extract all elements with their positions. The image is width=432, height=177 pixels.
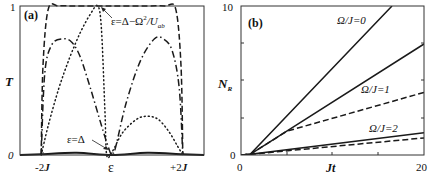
annotation-bottom: ε=Δ <box>67 133 85 145</box>
curve-label-omega2: Ω/J=2 <box>369 122 398 134</box>
curve-label-omega1: Ω/J=1 <box>361 83 390 95</box>
panel-b-ytick-bottom: 0 <box>230 149 236 161</box>
panel-b-ylabel: NR <box>217 76 232 93</box>
panel-a-ytick-bottom: 0 <box>8 149 14 161</box>
figure: (a) 1 0 T -2J ε +2J ε=Δ−Ω2/Uab ε=Δ <box>0 0 432 177</box>
panel-b-xlabel: Jt <box>325 161 336 175</box>
panel-b-xtick-right: 20 <box>416 161 428 173</box>
panel-a-label: (a) <box>24 8 38 22</box>
panel-a-xtick-left: -2J <box>35 161 50 173</box>
panel-a-xlabel: ε <box>108 160 114 175</box>
curve-label-omega0: Ω/J=0 <box>337 14 366 26</box>
panel-a-frame <box>20 6 204 155</box>
panel-a-ytick-top: 1 <box>10 1 16 13</box>
panel-b-label: (b) <box>248 16 263 30</box>
panel-b-ytick-top: 10 <box>222 1 234 13</box>
panel-b-xtick-left: 0 <box>237 161 243 173</box>
series-line <box>41 37 183 155</box>
annotation-top: ε=Δ−Ω2/Uab <box>111 14 165 30</box>
panel-b: (b) 10 0 NR 0 Jt 20 Ω/J=0 Ω/J=1 Ω/J=2 <box>217 1 428 175</box>
panel-a-xtick-right: +2J <box>170 161 188 173</box>
panel-a: (a) 1 0 T -2J ε +2J ε=Δ−Ω2/Uab ε=Δ <box>5 1 204 175</box>
panel-a-ylabel: T <box>5 74 14 89</box>
